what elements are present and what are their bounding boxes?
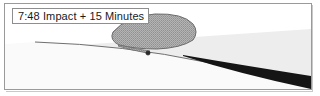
figure-frame: 7:48 Impact + 15 Minutes — [4, 3, 312, 90]
timestamp-label-box: 7:48 Impact + 15 Minutes — [12, 8, 149, 24]
impact-point-marker — [146, 51, 150, 55]
frame-shadow-bottom — [6, 91, 313, 92]
impact-simulation-figure: 7:48 Impact + 15 Minutes — [0, 0, 320, 96]
timestamp-label-text: 7:48 Impact + 15 Minutes — [18, 11, 144, 22]
frame-shadow-right — [312, 5, 313, 92]
